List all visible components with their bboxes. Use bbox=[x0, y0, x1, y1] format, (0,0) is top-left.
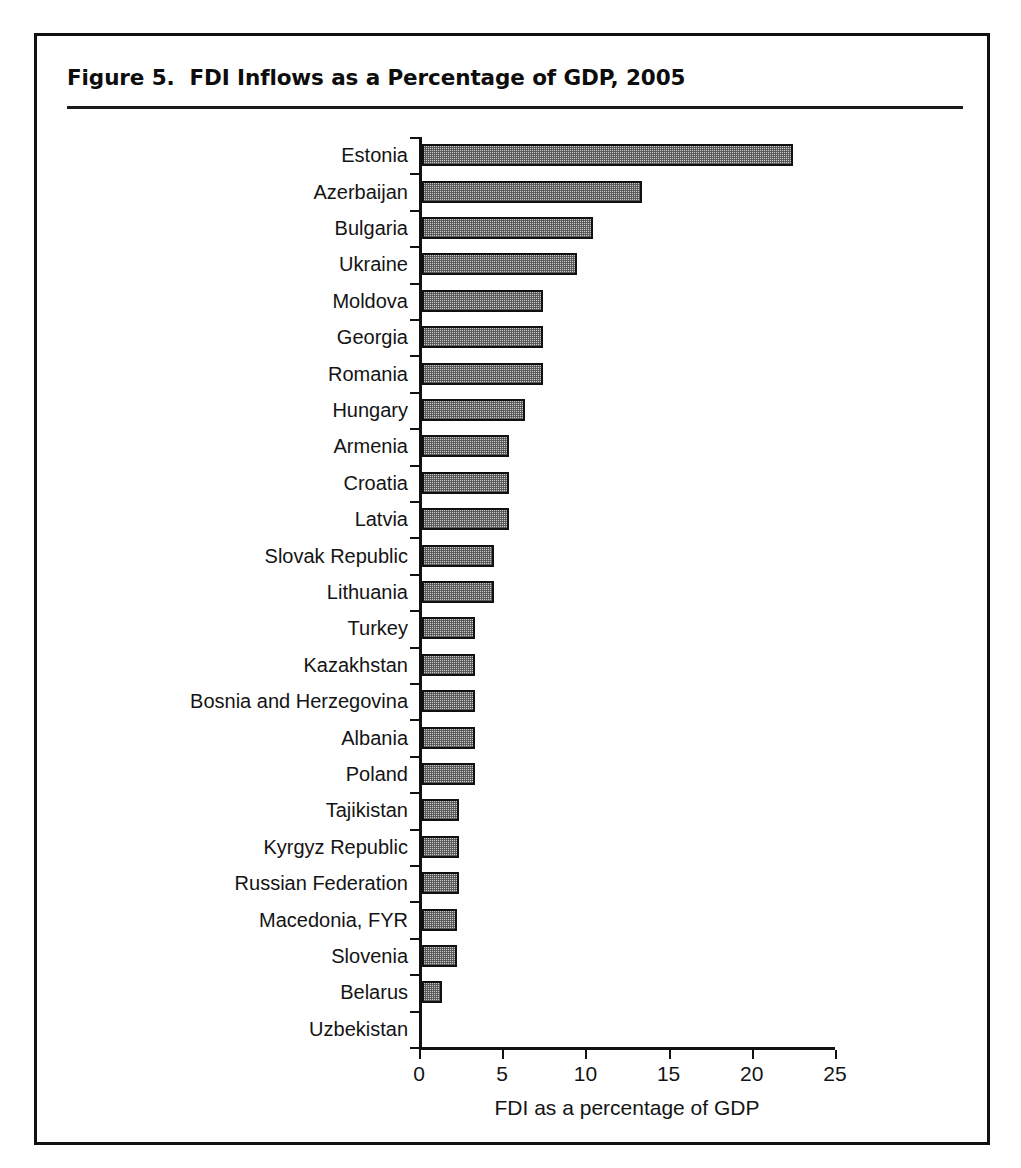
y-axis-tick bbox=[410, 501, 419, 503]
bar-row: Bulgaria bbox=[37, 210, 993, 246]
y-axis-tick bbox=[410, 792, 419, 794]
y-axis-tick bbox=[410, 319, 419, 321]
y-axis-tick bbox=[410, 1047, 419, 1049]
y-axis-tick bbox=[410, 283, 419, 285]
bar-row: Kazakhstan bbox=[37, 647, 993, 683]
bar-row: Moldova bbox=[37, 283, 993, 319]
bar bbox=[422, 909, 457, 931]
y-axis-tick bbox=[410, 901, 419, 903]
bar-row: Ukraine bbox=[37, 246, 993, 282]
bar bbox=[422, 472, 509, 494]
y-axis-tick bbox=[410, 210, 419, 212]
category-label: Turkey bbox=[348, 617, 408, 640]
bar bbox=[422, 581, 494, 603]
bar-row: Albania bbox=[37, 719, 993, 755]
x-axis-tick bbox=[669, 1050, 671, 1059]
bar-row: Estonia bbox=[37, 137, 993, 173]
bar-row: Georgia bbox=[37, 319, 993, 355]
category-label: Slovak Republic bbox=[265, 544, 408, 567]
category-label: Poland bbox=[346, 762, 408, 785]
bar bbox=[422, 872, 459, 894]
category-label: Kazakhstan bbox=[303, 653, 408, 676]
bar-row: Hungary bbox=[37, 392, 993, 428]
x-axis-tick-label: 15 bbox=[657, 1062, 680, 1086]
category-label: Slovenia bbox=[331, 944, 408, 967]
category-label: Tajikistan bbox=[326, 799, 408, 822]
x-axis-tick bbox=[752, 1050, 754, 1059]
category-label: Latvia bbox=[355, 508, 408, 531]
bar-row: Latvia bbox=[37, 501, 993, 537]
bar bbox=[422, 435, 509, 457]
bar-row: Romania bbox=[37, 355, 993, 391]
bar-row: Russian Federation bbox=[37, 865, 993, 901]
chart-plot-area: EstoniaAzerbaijanBulgariaUkraineMoldovaG… bbox=[37, 36, 993, 1148]
x-axis-tick bbox=[419, 1040, 421, 1059]
y-axis-tick bbox=[410, 756, 419, 758]
y-axis-tick bbox=[410, 574, 419, 576]
y-axis-tick bbox=[410, 610, 419, 612]
bar bbox=[422, 617, 475, 639]
y-axis-tick bbox=[410, 865, 419, 867]
y-axis-tick bbox=[410, 938, 419, 940]
y-axis-tick bbox=[410, 537, 419, 539]
category-label: Lithuania bbox=[327, 580, 408, 603]
y-axis-tick bbox=[410, 246, 419, 248]
bar bbox=[422, 799, 459, 821]
category-label: Romania bbox=[328, 362, 408, 385]
category-label: Ukraine bbox=[339, 253, 408, 276]
bar bbox=[422, 763, 475, 785]
bar bbox=[422, 363, 543, 385]
bar-row: Uzbekistan bbox=[37, 1011, 993, 1047]
bar-row: Azerbaijan bbox=[37, 173, 993, 209]
x-axis-tick-label: 0 bbox=[413, 1062, 425, 1086]
bar bbox=[422, 836, 459, 858]
category-label: Armenia bbox=[334, 435, 408, 458]
category-label: Georgia bbox=[337, 326, 408, 349]
bar-row: Turkey bbox=[37, 610, 993, 646]
y-axis-tick bbox=[410, 719, 419, 721]
category-label: Azerbaijan bbox=[313, 180, 408, 203]
category-label: Belarus bbox=[340, 981, 408, 1004]
x-axis-title: FDI as a percentage of GDP bbox=[419, 1096, 835, 1120]
bar bbox=[422, 945, 457, 967]
y-axis-tick bbox=[410, 428, 419, 430]
bar-row: Belarus bbox=[37, 974, 993, 1010]
bar-row: Lithuania bbox=[37, 574, 993, 610]
category-label: Estonia bbox=[341, 144, 408, 167]
category-label: Macedonia, FYR bbox=[259, 908, 408, 931]
bar bbox=[422, 290, 543, 312]
y-axis-tick bbox=[410, 829, 419, 831]
y-axis-tick bbox=[410, 1011, 419, 1013]
bar bbox=[422, 181, 642, 203]
y-axis-tick bbox=[410, 647, 419, 649]
bar-row: Bosnia and Herzegovina bbox=[37, 683, 993, 719]
y-axis-tick bbox=[410, 173, 419, 175]
bar bbox=[422, 727, 475, 749]
bar bbox=[422, 654, 475, 676]
x-axis-tick-label: 5 bbox=[496, 1062, 508, 1086]
y-axis-tick bbox=[410, 974, 419, 976]
bar-row: Macedonia, FYR bbox=[37, 901, 993, 937]
x-axis-tick-label: 20 bbox=[740, 1062, 763, 1086]
bar bbox=[422, 326, 543, 348]
y-axis-tick bbox=[410, 392, 419, 394]
bar-row: Croatia bbox=[37, 465, 993, 501]
bar-row: Poland bbox=[37, 756, 993, 792]
bar-row: Tajikistan bbox=[37, 792, 993, 828]
y-axis-tick bbox=[410, 355, 419, 357]
category-label: Moldova bbox=[332, 289, 408, 312]
x-axis-tick bbox=[585, 1050, 587, 1059]
x-axis-line bbox=[419, 1047, 835, 1050]
category-label: Kyrgyz Republic bbox=[263, 835, 408, 858]
x-axis-tick-label: 25 bbox=[823, 1062, 846, 1086]
bar-row: Kyrgyz Republic bbox=[37, 829, 993, 865]
x-axis-tick bbox=[502, 1050, 504, 1059]
bar-row: Slovak Republic bbox=[37, 537, 993, 573]
category-label: Albania bbox=[341, 726, 408, 749]
bar bbox=[422, 253, 577, 275]
bar-row: Slovenia bbox=[37, 938, 993, 974]
category-label: Hungary bbox=[332, 398, 408, 421]
bar bbox=[422, 981, 442, 1003]
x-axis-tick-label: 10 bbox=[574, 1062, 597, 1086]
bar bbox=[422, 144, 793, 166]
